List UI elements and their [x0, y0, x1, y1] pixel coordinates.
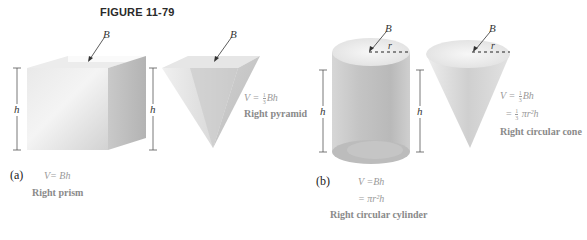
prism-name: Right prism: [32, 187, 83, 198]
fraction: 13: [519, 90, 522, 103]
cylinder-formula-line2: = πr²h: [358, 193, 384, 204]
cylinder-radius-label: r: [388, 40, 392, 51]
part-a-label: (a): [10, 168, 23, 183]
cylinder-base-label: B: [385, 22, 392, 34]
cylinder-height-label-right: h: [417, 105, 423, 117]
fraction: 13: [515, 108, 518, 121]
prism-base-label: B: [103, 28, 110, 40]
pyramid-base-label: B: [230, 28, 237, 40]
prism-height-label: h: [14, 103, 20, 115]
pyramid-formula: V = 13Bh: [244, 92, 278, 105]
cone-radius-label: r: [491, 40, 495, 51]
right-prism: [12, 38, 158, 150]
fraction: 13: [263, 92, 266, 105]
part-b-label: (b): [316, 174, 330, 189]
pyramid-name: Right pyramid: [244, 108, 307, 119]
prism-formula: V= Bh: [44, 170, 70, 181]
cone-formula-line1: V = 13Bh: [500, 90, 534, 103]
cone-name: Right circular cone: [500, 126, 582, 137]
right-circular-cone: [426, 32, 510, 148]
cylinder-name: Right circular cylinder: [330, 209, 427, 220]
cone-formula-line2: = 13 πr²h: [506, 108, 539, 121]
right-circular-cylinder: [318, 32, 425, 164]
cone-base-label: B: [489, 22, 496, 34]
cylinder-formula-line1: V =Bh: [358, 176, 384, 187]
cylinder-height-label-left: h: [320, 105, 326, 117]
pyramid-height-label: h: [150, 103, 156, 115]
